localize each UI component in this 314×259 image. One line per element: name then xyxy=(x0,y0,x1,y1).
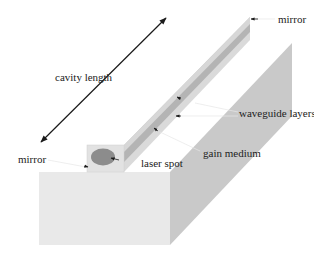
label-gain-medium: gain medium xyxy=(203,148,261,159)
label-cavity-length: cavity length xyxy=(55,72,112,83)
substrate-front-face xyxy=(39,172,170,245)
laser-spot xyxy=(91,149,115,166)
laser-diagram xyxy=(0,0,314,259)
substrate-side-face xyxy=(170,43,292,245)
label-mirror-front: mirror xyxy=(18,154,46,165)
label-waveguide-layers: waveguide layers xyxy=(239,108,314,119)
label-laser-spot: laser spot xyxy=(141,158,183,169)
label-mirror-back: mirror xyxy=(278,14,306,25)
